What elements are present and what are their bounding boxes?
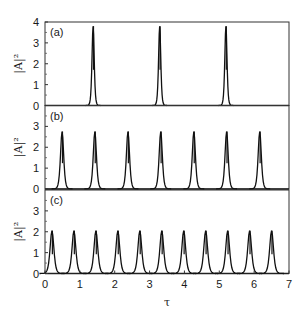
x-tick-label: 6	[251, 278, 257, 290]
y-axis-title: |A|²	[12, 54, 26, 74]
y-tick-label: 2	[33, 226, 39, 238]
y-axis-title: |A|²	[12, 137, 26, 157]
y-tick-label: 1	[33, 247, 39, 259]
y-axis-title: |A|²	[12, 222, 26, 242]
x-tick-label: 4	[181, 278, 187, 290]
panel-frame	[45, 22, 289, 106]
y-tick-label: 3	[33, 205, 39, 217]
y-tick-label: 2	[33, 141, 39, 153]
x-tick-label: 3	[147, 278, 153, 290]
y-tick-label: 4	[33, 16, 39, 28]
y-tick-label: 2	[33, 58, 39, 70]
x-tick-label: 0	[42, 278, 48, 290]
x-tick-label: 1	[77, 278, 83, 290]
panel-label: (a)	[50, 26, 63, 38]
x-axis-title: τ	[164, 296, 170, 309]
panel-label: (c)	[50, 194, 63, 206]
y-tick-label: 0	[33, 183, 39, 195]
y-tick-label: 1	[33, 162, 39, 174]
panel-label: (b)	[50, 110, 63, 122]
y-tick-label: 0	[33, 100, 39, 112]
panel-frame	[45, 106, 289, 190]
pulse-train-chart: 01234(a)|A|²0123(b)|A|²0123(c)|A|²012345…	[0, 0, 305, 316]
y-tick-label: 3	[33, 120, 39, 132]
y-tick-label: 0	[33, 268, 39, 280]
y-tick-label: 1	[33, 79, 39, 91]
x-tick-label: 2	[112, 278, 118, 290]
x-tick-label: 5	[216, 278, 222, 290]
y-tick-label: 3	[33, 37, 39, 49]
x-tick-label: 7	[286, 278, 292, 290]
